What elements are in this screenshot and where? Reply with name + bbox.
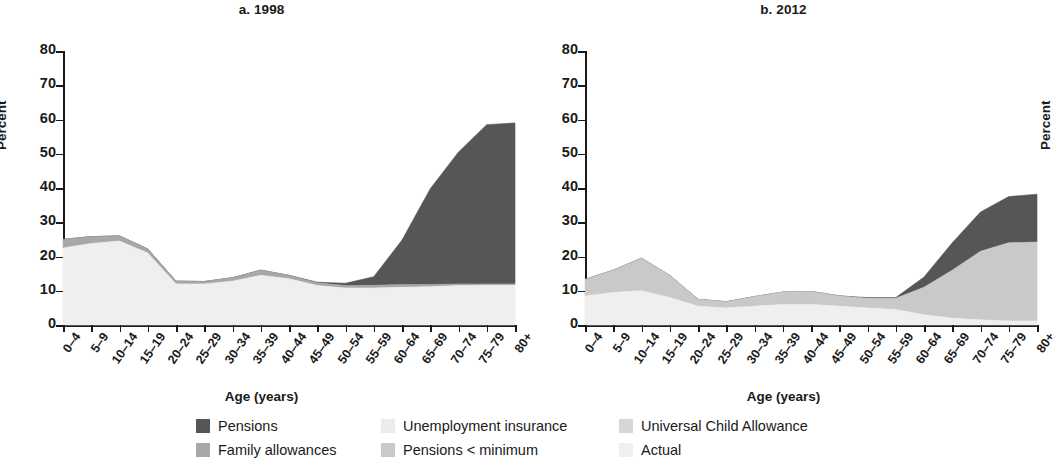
panel-a-y-tick-labels: 01020304050607080	[20, 51, 56, 325]
y-tick-mark	[56, 257, 63, 259]
legend-label: Family allowances	[218, 442, 336, 458]
chart-legend: PensionsUnemployment insuranceUniversal …	[0, 414, 1045, 465]
y-tick-mark	[578, 222, 585, 224]
legend-swatch-icon	[381, 419, 395, 433]
legend-swatch-icon	[381, 443, 395, 457]
y-tick-mark	[56, 154, 63, 156]
y-tick-mark	[578, 120, 585, 122]
y-tick-mark	[56, 291, 63, 293]
y-tick-mark	[578, 85, 585, 87]
legend-item: Universal Child Allowance	[619, 418, 869, 434]
y-tick-mark	[578, 291, 585, 293]
panel-a-x-axis-title: Age (years)	[0, 389, 523, 404]
panel-b-plot-area	[585, 51, 1037, 325]
y-tick-label: 10	[22, 281, 56, 297]
y-tick-label: 60	[544, 110, 578, 126]
chart-panel-b: b. 2012 Percent 01020304050607080 0–45–9…	[522, 0, 1045, 410]
y-tick-mark	[578, 188, 585, 190]
y-tick-label: 30	[544, 212, 578, 228]
y-tick-label: 40	[544, 178, 578, 194]
chart-panel-a: a. 1998 Percent 01020304050607080 0–45–9…	[0, 0, 523, 410]
y-tick-mark	[578, 154, 585, 156]
y-tick-label: 40	[22, 178, 56, 194]
legend-label: Unemployment insurance	[403, 418, 567, 434]
y-tick-mark	[56, 120, 63, 122]
panel-a-y-axis-title: Percent	[0, 100, 9, 150]
y-tick-label: 80	[22, 41, 56, 57]
y-tick-label: 50	[544, 144, 578, 160]
x-tick-mark	[1037, 325, 1039, 332]
y-tick-mark	[56, 85, 63, 87]
y-tick-mark	[578, 257, 585, 259]
y-tick-label: 50	[22, 144, 56, 160]
panel-a-area-series	[63, 51, 515, 325]
y-tick-label: 70	[544, 75, 578, 91]
panel-a-x-tick-labels: 0–45–910–1415–1920–2425–2930–3435–3940–4…	[63, 330, 515, 386]
legend-label: Pensions < minimum	[403, 442, 538, 458]
legend-item: Family allowances	[196, 442, 381, 458]
y-tick-mark	[578, 325, 585, 327]
panel-b-x-axis-title: Age (years)	[522, 389, 1045, 404]
y-tick-mark	[56, 188, 63, 190]
panel-b-title: b. 2012	[522, 2, 1045, 17]
y-tick-label: 30	[22, 212, 56, 228]
y-tick-label: 20	[544, 247, 578, 263]
y-tick-label: 20	[22, 247, 56, 263]
y-tick-mark	[56, 222, 63, 224]
y-tick-label: 70	[22, 75, 56, 91]
legend-swatch-icon	[619, 443, 633, 457]
legend-item: Pensions < minimum	[381, 442, 619, 458]
panel-b-x-tick-labels: 0–45–910–1415–1920–2425–2930–3435–3940–4…	[585, 330, 1037, 386]
legend-items-container: PensionsUnemployment insuranceUniversal …	[196, 414, 869, 462]
y-tick-label: 0	[544, 315, 578, 331]
legend-swatch-icon	[196, 419, 210, 433]
y-tick-label: 80	[544, 41, 578, 57]
legend-label: Pensions	[218, 418, 278, 434]
legend-label: Actual	[641, 442, 681, 458]
y-tick-label: 60	[22, 110, 56, 126]
panel-a-title: a. 1998	[0, 2, 523, 17]
legend-swatch-icon	[619, 419, 633, 433]
y-tick-label: 0	[22, 315, 56, 331]
panel-b-y-axis-title: Percent	[1038, 100, 1053, 150]
legend-item: Actual	[619, 442, 869, 458]
y-tick-mark	[56, 51, 63, 53]
legend-swatch-icon	[196, 443, 210, 457]
legend-item: Unemployment insurance	[381, 418, 619, 434]
legend-item: Pensions	[196, 418, 381, 434]
panel-a-plot-area	[63, 51, 515, 325]
legend-label: Universal Child Allowance	[641, 418, 808, 434]
y-tick-label: 10	[544, 281, 578, 297]
y-tick-mark	[56, 325, 63, 327]
panel-b-y-tick-labels: 01020304050607080	[542, 51, 578, 325]
y-tick-mark	[578, 51, 585, 53]
panel-b-area-series	[585, 51, 1037, 325]
x-tick-mark	[515, 325, 517, 332]
